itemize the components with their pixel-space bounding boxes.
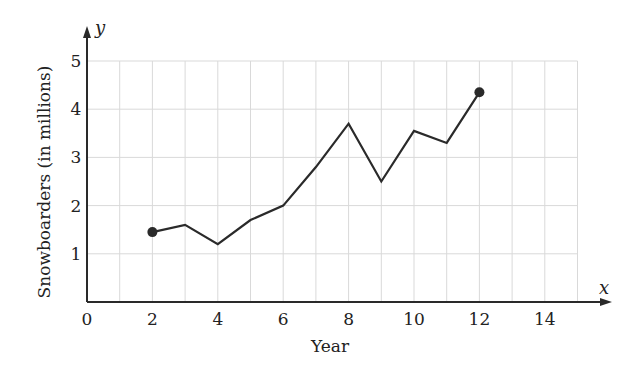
- x-tick-label: 0: [82, 309, 93, 329]
- x-tick-label: 10: [403, 309, 425, 329]
- x-variable-label: x: [599, 277, 609, 298]
- start-point-marker: [147, 227, 157, 237]
- y-tick-label: 3: [71, 147, 82, 167]
- grid: [87, 61, 578, 302]
- axes: [83, 26, 612, 306]
- y-tick-label: 4: [71, 99, 82, 119]
- end-point-marker: [474, 87, 484, 97]
- line-chart: 0246810121412345 Year Snowboarders (in m…: [0, 0, 638, 370]
- x-tick-label: 8: [343, 309, 354, 329]
- y-axis-arrow-icon: [83, 26, 91, 38]
- x-tick-label: 6: [278, 309, 289, 329]
- x-axis-arrow-icon: [600, 298, 612, 306]
- x-tick-label: 14: [534, 309, 556, 329]
- y-tick-label: 5: [71, 51, 82, 71]
- y-tick-label: 1: [71, 244, 82, 264]
- x-tick-label: 2: [147, 309, 158, 329]
- y-axis-title: Snowboarders (in millions): [34, 66, 54, 299]
- x-tick-label: 12: [469, 309, 491, 329]
- x-axis-title: Year: [310, 336, 350, 356]
- y-variable-label: y: [94, 17, 106, 38]
- x-tick-label: 4: [212, 309, 223, 329]
- y-tick-label: 2: [71, 196, 82, 216]
